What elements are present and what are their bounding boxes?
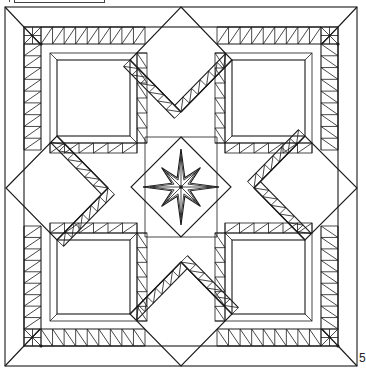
page-number: 5 bbox=[359, 352, 366, 364]
center-compass-star bbox=[143, 149, 219, 225]
